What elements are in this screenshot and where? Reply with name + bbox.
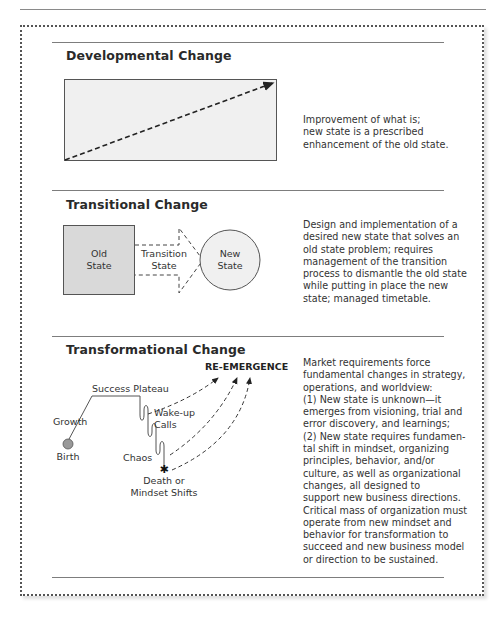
section-divider [52, 190, 444, 191]
section-divider [52, 336, 444, 337]
birth-dot [63, 439, 73, 449]
section-title-developmental: Developmental Change [66, 48, 232, 63]
growth-label: Growth [53, 416, 87, 427]
new-state-label: New [220, 248, 241, 259]
transformational-description: Market requirements force fundamental ch… [303, 357, 467, 566]
section-title-transitional: Transitional Change [66, 197, 208, 212]
wake-up-calls-label: Calls [154, 419, 177, 430]
death-label: Death or [143, 475, 185, 486]
transformational-diagram: ✱ RE-EMERGENCE Success Plateau Growth Wa… [40, 370, 280, 550]
chaos-label: Chaos [123, 452, 152, 463]
old-state-label: Old [91, 248, 107, 259]
developmental-diagram [64, 79, 284, 164]
figure-top-rule [20, 9, 486, 10]
section-divider [52, 42, 444, 43]
transitional-diagram: Old State Transition State New State [63, 225, 273, 305]
death-label: Mindset Shifts [131, 487, 198, 498]
success-plateau-label: Success Plateau [92, 383, 169, 394]
section-divider [52, 577, 444, 578]
re-emergence-label: RE-EMERGENCE [205, 361, 288, 372]
old-state-label: State [86, 260, 111, 271]
new-state-label: State [217, 260, 242, 271]
section-title-transformational: Transformational Change [66, 342, 246, 357]
transitional-description: Design and implementation of a desired n… [303, 219, 467, 305]
wake-up-calls-label: Wake-up [154, 407, 195, 418]
developmental-description: Improvement of what is; new state is a p… [303, 114, 448, 151]
birth-label: Birth [57, 451, 80, 462]
transition-state-label: Transition [140, 248, 187, 259]
transition-state-label: State [151, 260, 176, 271]
